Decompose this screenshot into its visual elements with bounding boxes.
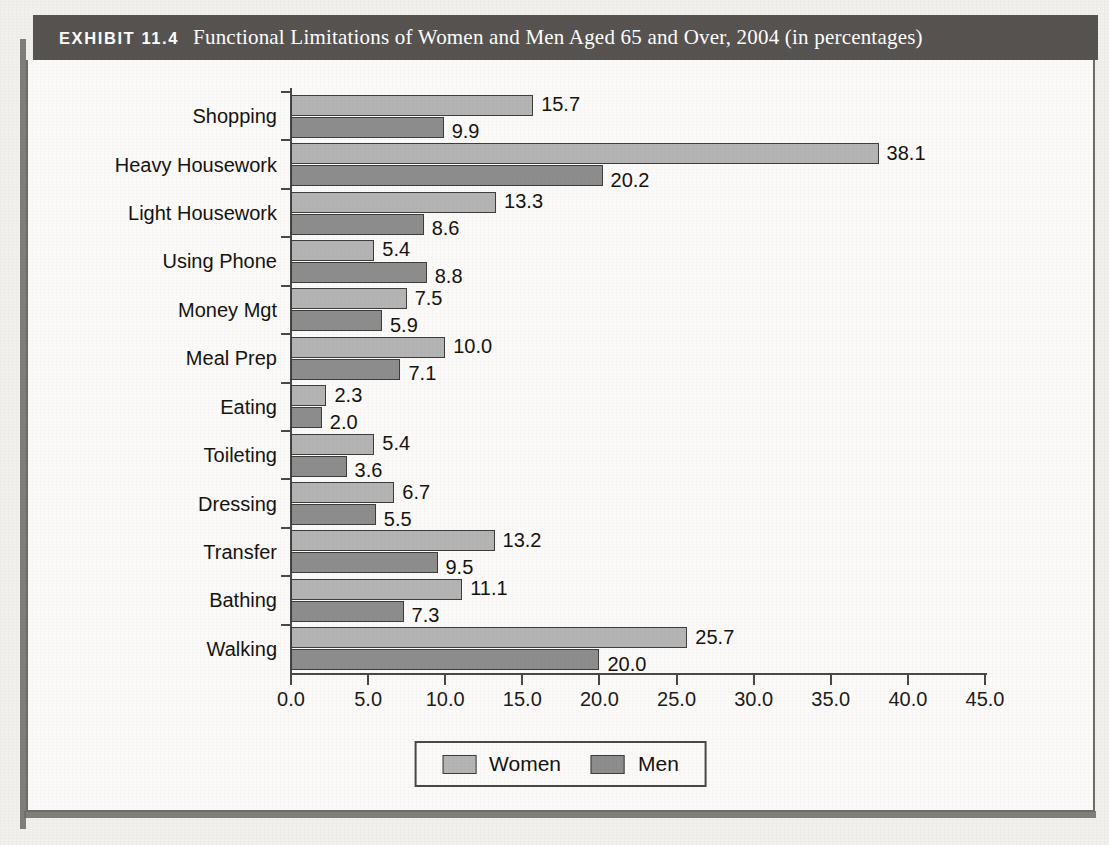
exhibit-header-bar: EXHIBIT 11.4Functional Limitations of Wo…: [33, 15, 1098, 60]
bar-men: [291, 504, 376, 525]
bar-women: [291, 240, 374, 261]
bar-value-label: 5.5: [384, 507, 412, 530]
bar-women: [291, 385, 326, 406]
y-axis-tick: [281, 91, 291, 93]
bar-value-label: 5.9: [390, 313, 418, 336]
y-axis-category-label: Shopping: [192, 105, 277, 128]
bar-chart: 0.05.010.015.020.025.030.035.040.045.0 S…: [28, 60, 1093, 810]
x-axis-tick: [907, 675, 909, 685]
x-axis-tick-label: 20.0: [580, 688, 619, 711]
y-axis-category-label: Meal Prep: [186, 347, 277, 370]
bar-value-label: 38.1: [887, 141, 926, 164]
bar-value-label: 5.4: [382, 238, 410, 261]
bar-value-label: 8.8: [435, 265, 463, 288]
figure-shadow-bottom: [24, 811, 1096, 818]
y-axis-category-label: Light Housework: [128, 202, 277, 225]
bar-value-label: 7.5: [415, 286, 443, 309]
bar-men: [291, 310, 382, 331]
y-axis-tick: [281, 139, 291, 141]
exhibit-figure: EXHIBIT 11.4Functional Limitations of Wo…: [20, 15, 1098, 817]
bar-men: [291, 117, 444, 138]
y-axis-tick: [281, 382, 291, 384]
exhibit-title: Functional Limitations of Women and Men …: [193, 25, 923, 49]
y-axis-tick: [281, 333, 291, 335]
x-axis-tick: [676, 675, 678, 685]
bar-value-label: 8.6: [432, 217, 460, 240]
y-axis-tick: [281, 478, 291, 480]
x-axis-tick: [290, 675, 292, 685]
x-axis-tick-label: 30.0: [734, 688, 773, 711]
y-axis-tick: [281, 575, 291, 577]
bar-women: [291, 288, 407, 309]
bar-value-label: 25.7: [695, 625, 734, 648]
exhibit-number-label: EXHIBIT 11.4: [59, 29, 179, 47]
x-axis-tick-label: 45.0: [966, 688, 1005, 711]
bar-value-label: 15.7: [541, 93, 580, 116]
x-axis-tick: [521, 675, 523, 685]
bar-value-label: 11.1: [470, 577, 507, 600]
bar-value-label: 20.0: [607, 652, 646, 675]
plot-area: 0.05.010.015.020.025.030.035.040.045.0 S…: [291, 92, 985, 673]
y-axis-category-label: Transfer: [203, 540, 277, 563]
y-axis-category-label: Toileting: [204, 444, 277, 467]
bar-men: [291, 262, 427, 283]
bar-women: [291, 192, 496, 213]
bar-men: [291, 456, 347, 477]
bar-value-label: 13.2: [503, 528, 542, 551]
bar-value-label: 5.4: [382, 432, 410, 455]
y-axis-tick: [281, 236, 291, 238]
y-axis-category-label: Heavy Housework: [115, 153, 277, 176]
x-axis-tick: [984, 675, 986, 685]
x-axis-tick: [830, 675, 832, 685]
legend-swatch-icon: [591, 755, 625, 774]
y-axis-category-label: Walking: [207, 637, 277, 660]
y-axis-tick: [281, 285, 291, 287]
bar-women: [291, 482, 394, 503]
x-axis-tick-label: 40.0: [888, 688, 927, 711]
bar-value-label: 20.2: [611, 168, 650, 191]
bar-men: [291, 165, 603, 186]
bar-men: [291, 214, 424, 235]
bar-women: [291, 579, 462, 600]
y-axis-tick: [281, 624, 291, 626]
bar-men: [291, 649, 599, 670]
legend-label: Women: [489, 752, 561, 776]
bar-value-label: 2.0: [330, 410, 358, 433]
bar-value-label: 2.3: [334, 383, 362, 406]
legend-item-women: Women: [442, 752, 561, 776]
bar-women: [291, 337, 445, 358]
x-axis-tick-label: 35.0: [811, 688, 850, 711]
bar-value-label: 10.0: [453, 335, 492, 358]
y-axis-tick: [281, 430, 291, 432]
bar-men: [291, 552, 438, 573]
y-axis-category-label: Money Mgt: [178, 298, 277, 321]
legend-swatch-icon: [442, 755, 476, 774]
y-axis-category-label: Eating: [220, 395, 277, 418]
bar-men: [291, 407, 322, 428]
y-axis-category-label: Dressing: [198, 492, 277, 515]
bar-women: [291, 627, 687, 648]
y-axis-tick: [281, 527, 291, 529]
legend-label: Men: [638, 752, 679, 776]
legend-item-men: Men: [591, 752, 679, 776]
x-axis-tick-label: 15.0: [503, 688, 542, 711]
x-axis-tick-label: 10.0: [426, 688, 465, 711]
y-axis-tick: [281, 188, 291, 190]
bar-women: [291, 143, 879, 164]
y-axis-category-label: Using Phone: [162, 250, 277, 273]
bar-men: [291, 601, 404, 622]
bar-value-label: 7.3: [412, 604, 440, 627]
bar-value-label: 13.3: [504, 190, 543, 213]
chart-legend: WomenMen: [414, 741, 707, 787]
bar-value-label: 3.6: [355, 459, 383, 482]
bar-women: [291, 434, 374, 455]
bar-women: [291, 530, 495, 551]
bar-value-label: 6.7: [402, 480, 430, 503]
x-axis-tick: [598, 675, 600, 685]
x-axis-tick: [444, 675, 446, 685]
x-axis-tick-label: 5.0: [354, 688, 382, 711]
bar-women: [291, 95, 533, 116]
bar-men: [291, 359, 400, 380]
bar-value-label: 9.5: [446, 555, 474, 578]
exhibit-body: 0.05.010.015.020.025.030.035.040.045.0 S…: [26, 60, 1095, 812]
